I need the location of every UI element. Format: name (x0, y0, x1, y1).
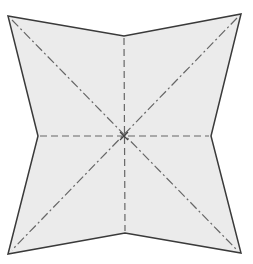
fold-diagram (0, 0, 253, 264)
